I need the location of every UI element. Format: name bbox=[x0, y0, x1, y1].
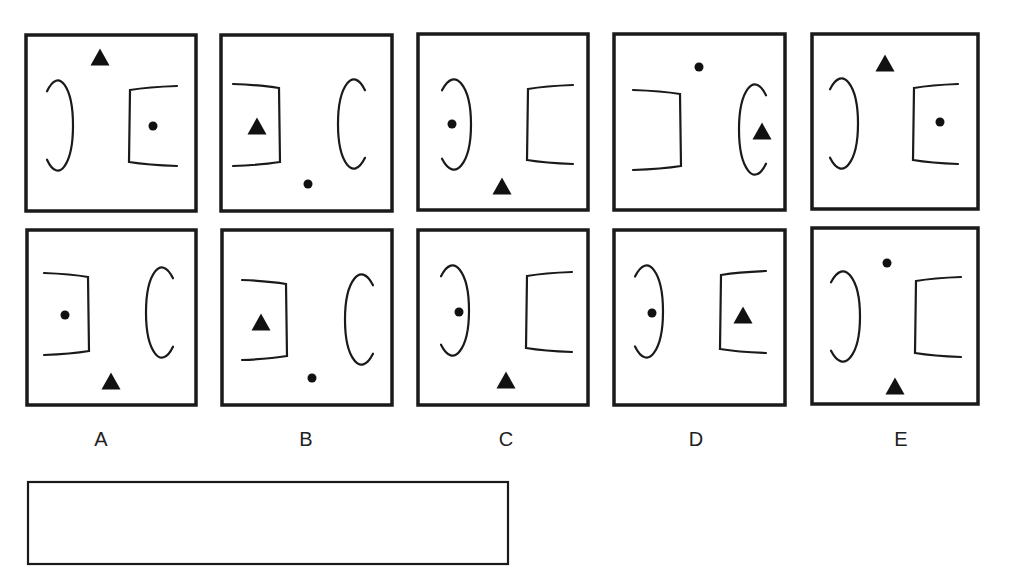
sequence-row bbox=[26, 34, 978, 211]
panel-frame[interactable] bbox=[222, 230, 392, 405]
option-label[interactable]: A bbox=[94, 428, 108, 450]
panel-frame bbox=[26, 35, 196, 211]
dot-icon bbox=[695, 63, 704, 72]
dot-icon bbox=[149, 122, 158, 131]
option-panel-d[interactable]: D bbox=[614, 230, 785, 450]
option-panel-b[interactable]: B bbox=[222, 230, 392, 450]
sequence-panel-2 bbox=[221, 35, 392, 211]
option-label[interactable]: C bbox=[499, 428, 513, 450]
option-label[interactable]: D bbox=[689, 428, 703, 450]
dot-icon bbox=[455, 308, 464, 317]
dot-icon bbox=[648, 309, 657, 318]
option-panel-a[interactable]: A bbox=[27, 230, 196, 450]
sequence-panel-1 bbox=[26, 35, 196, 211]
option-panel-c[interactable]: C bbox=[418, 230, 588, 450]
dot-icon bbox=[61, 311, 70, 320]
panel-frame bbox=[812, 34, 978, 209]
puzzle-canvas: ABCDE bbox=[0, 0, 1010, 588]
sequence-panel-4 bbox=[614, 34, 785, 210]
options-row: ABCDE bbox=[27, 228, 978, 450]
option-label[interactable]: E bbox=[894, 428, 907, 450]
panel-frame[interactable] bbox=[614, 230, 785, 405]
sequence-panel-5 bbox=[812, 34, 978, 209]
dot-icon bbox=[308, 374, 317, 383]
answer-area bbox=[28, 482, 508, 564]
option-panel-e[interactable]: E bbox=[812, 228, 978, 450]
sequence-panel-3 bbox=[418, 34, 588, 210]
dot-icon bbox=[448, 120, 457, 129]
answer-input-box[interactable] bbox=[28, 482, 508, 564]
dot-icon bbox=[936, 118, 945, 127]
dot-icon bbox=[304, 180, 313, 189]
dot-icon bbox=[883, 259, 892, 268]
option-label[interactable]: B bbox=[299, 428, 312, 450]
panel-frame bbox=[614, 34, 785, 210]
